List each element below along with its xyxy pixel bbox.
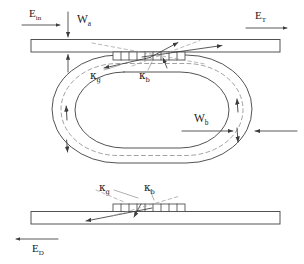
label-bus-width: Wa — [77, 14, 91, 28]
ring-direction-arrows — [66, 99, 238, 152]
label-input-field: Ein — [29, 8, 41, 22]
bottom-grating-coupler — [113, 204, 185, 212]
label-kappa-bus-top: κb — [139, 70, 150, 84]
label-drop-field: ED — [32, 243, 44, 257]
ring-circulation-path — [61, 64, 243, 156]
label-kappa-grating-bottom: κg — [99, 182, 110, 196]
bottom-bus-waveguide — [31, 212, 280, 225]
label-ring-width: Wb — [194, 113, 209, 127]
label-kappa-bus-bottom: κb — [144, 182, 155, 196]
figure-canvas: Ein ET ED Wa Wb κg κb κg κb — [0, 0, 304, 264]
top-bus-waveguide — [31, 40, 280, 53]
ring-resonator-diagram — [0, 0, 304, 264]
label-kappa-grating-top: κg — [90, 70, 101, 84]
label-through-field: ET — [255, 10, 266, 24]
racetrack-ring-resonator — [52, 55, 252, 163]
